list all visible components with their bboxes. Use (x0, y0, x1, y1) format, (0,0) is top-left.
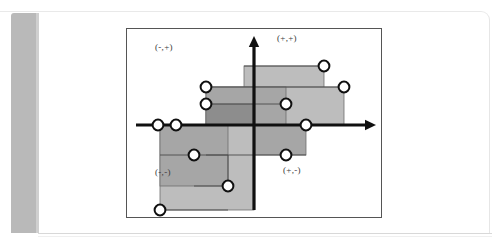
node-axis-left-inner (171, 120, 182, 131)
page-binding-bar (11, 13, 38, 233)
node-lower-inner (223, 181, 234, 192)
node-axis-left-outer (153, 120, 164, 131)
quadrant-diagram (126, 28, 382, 218)
node-upper-left-mid (201, 99, 212, 110)
node-upper-right-top (319, 61, 330, 72)
page-binding-edge (36, 13, 39, 233)
quadrant-label-lower-left: (-,-) (155, 167, 171, 177)
page-horizontal-rule-secondary (38, 236, 492, 237)
node-lower-left-out (155, 205, 166, 216)
quadrant-label-upper-left: (-,+) (155, 42, 173, 52)
page-horizontal-rule (38, 233, 492, 234)
node-upper-right-far (339, 82, 350, 93)
node-upper-mid-right (281, 99, 292, 110)
node-axis-right (301, 120, 312, 131)
node-lower-left-in (189, 150, 200, 161)
quadrant-label-upper-right: (+,+) (277, 33, 297, 43)
y-axis-arrow-icon (249, 36, 259, 47)
rectangle-layer (160, 66, 344, 210)
quadrant-label-lower-right: (+,-) (283, 165, 301, 175)
x-axis-arrow-icon (365, 120, 376, 130)
page-root: (-,+) (+,+) (-,-) (+,-) (0, 0, 496, 248)
rect-core-dark (206, 104, 254, 125)
node-lower-right (281, 150, 292, 161)
node-upper-left-high (201, 82, 212, 93)
